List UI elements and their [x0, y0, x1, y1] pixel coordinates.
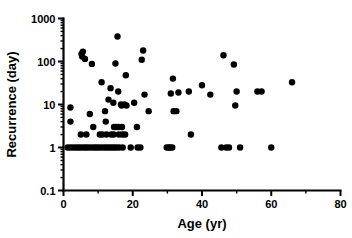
data-point — [114, 33, 120, 39]
x-tick-label-60: 60 — [265, 198, 277, 210]
data-point — [107, 85, 113, 91]
data-point — [87, 111, 93, 117]
axis-titles-group: Age (yr)Recurrence (day) — [4, 51, 227, 231]
x-tick-label-0: 0 — [60, 198, 66, 210]
data-point — [67, 118, 73, 124]
data-point — [103, 118, 109, 124]
y-tick-label-1000: 1000 — [31, 13, 55, 25]
data-point — [82, 56, 88, 62]
data-point — [89, 61, 95, 67]
data-point — [123, 72, 129, 78]
data-point — [115, 88, 121, 94]
data-point — [134, 124, 140, 130]
x-tick-label-80: 80 — [334, 198, 346, 210]
data-point — [233, 88, 239, 94]
data-point — [139, 57, 145, 63]
data-point — [112, 60, 118, 66]
data-points-group — [64, 33, 295, 150]
data-point — [258, 88, 264, 94]
data-point — [141, 91, 147, 97]
y-tick-label-10: 10 — [43, 99, 55, 111]
scatter-plot-figure: 0.11101001000020406080 Age (yr)Recurrenc… — [0, 0, 352, 238]
data-point — [123, 102, 129, 108]
x-tick-label-20: 20 — [127, 198, 139, 210]
data-point — [231, 61, 237, 67]
y-tick-label-1: 1 — [49, 142, 55, 154]
data-point — [175, 89, 181, 95]
data-point — [90, 124, 96, 130]
data-point — [127, 144, 133, 150]
data-point — [199, 82, 205, 88]
data-point — [83, 131, 89, 137]
tick-labels-group: 0.11101001000020406080 — [31, 13, 347, 210]
data-point — [120, 144, 126, 150]
data-point — [67, 104, 73, 110]
data-point — [268, 144, 274, 150]
data-point — [186, 88, 192, 94]
chart-canvas: 0.11101001000020406080 Age (yr)Recurrenc… — [0, 0, 352, 238]
data-point — [145, 108, 151, 114]
data-point — [173, 108, 179, 114]
data-point — [119, 124, 125, 130]
y-tick-label-0.1: 0.1 — [40, 185, 55, 197]
data-point — [232, 102, 238, 108]
axes-group — [64, 19, 341, 191]
y-axis-title: Recurrence (day) — [4, 51, 19, 157]
data-point — [98, 79, 104, 85]
data-point — [168, 90, 174, 96]
data-point — [207, 91, 213, 97]
data-point — [237, 144, 243, 150]
data-point — [289, 79, 295, 85]
y-tick-label-100: 100 — [37, 56, 55, 68]
data-point — [102, 108, 108, 114]
data-point — [169, 144, 175, 150]
data-point — [137, 144, 143, 150]
data-point — [226, 144, 232, 150]
tick-marks-group — [58, 19, 341, 197]
data-point — [188, 131, 194, 137]
data-point — [220, 52, 226, 58]
data-point — [110, 100, 116, 106]
data-point — [131, 100, 137, 106]
x-axis-title: Age (yr) — [177, 216, 226, 231]
data-point — [122, 131, 128, 137]
data-point — [170, 75, 176, 81]
data-point — [78, 131, 84, 137]
data-point — [140, 47, 146, 53]
x-tick-label-40: 40 — [196, 198, 208, 210]
